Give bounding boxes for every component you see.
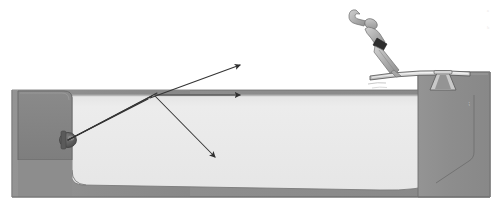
diving-board-fulcrum-cap: [434, 71, 452, 75]
pool-refraction-diagram: ᵃ ᵇ ⁏: [0, 0, 504, 215]
margin-mark-c: ⁏: [468, 100, 470, 106]
water-body: [72, 95, 474, 190]
left-coping-block: [18, 91, 72, 160]
left-wall-face: [18, 160, 72, 197]
right-wall-block: [418, 72, 490, 197]
margin-mark-a: ᵃ: [487, 8, 489, 16]
lamp-mount: [61, 131, 66, 149]
